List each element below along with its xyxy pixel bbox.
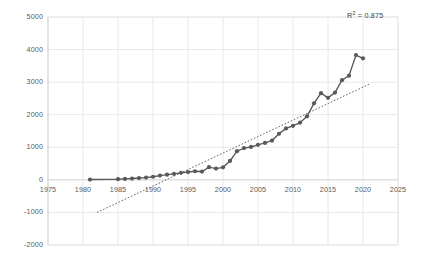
x-axis-tick-label: 1995 bbox=[173, 185, 203, 194]
y-axis-tick-label: 2000 bbox=[2, 110, 43, 119]
r-squared-annotation: R2 = 0.875 bbox=[347, 10, 383, 20]
y-axis-tick-label: -1000 bbox=[2, 207, 43, 216]
y-axis-tick-label: 3000 bbox=[2, 77, 43, 86]
y-axis-tick-label: -2000 bbox=[2, 240, 43, 249]
chart-plot-area bbox=[0, 0, 433, 260]
data-series-line bbox=[90, 55, 363, 179]
x-axis-tick-label: 1985 bbox=[103, 185, 133, 194]
data-series-markers bbox=[88, 53, 365, 182]
y-axis-tick-label: 5000 bbox=[2, 12, 43, 21]
x-axis-tick-label: 1980 bbox=[68, 185, 98, 194]
chart-container: 500040003000200010000-1000-2000 19751980… bbox=[0, 0, 433, 260]
x-axis-tick-label: 2010 bbox=[278, 185, 308, 194]
x-axis-tick-label: 2000 bbox=[208, 185, 238, 194]
x-axis-tick-label: 2020 bbox=[348, 185, 378, 194]
y-axis-tick-label: 1000 bbox=[2, 142, 43, 151]
x-axis-tick-label: 2015 bbox=[313, 185, 343, 194]
y-axis-tick-label: 4000 bbox=[2, 45, 43, 54]
x-axis-tick-label: 1990 bbox=[138, 185, 168, 194]
x-axis-tick-label: 2025 bbox=[383, 185, 413, 194]
x-axis-tick-label: 1975 bbox=[33, 185, 63, 194]
y-axis-tick-label: 0 bbox=[2, 175, 43, 184]
x-axis-tick-label: 2005 bbox=[243, 185, 273, 194]
